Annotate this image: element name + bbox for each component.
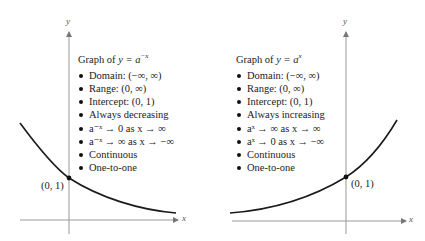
- left-point-label: (0, 1): [41, 180, 64, 191]
- right-item-continuous: Continuous: [236, 148, 325, 161]
- right-item-intercept: Intercept: (0, 1): [236, 95, 325, 108]
- right-title-equation: y = a: [276, 54, 298, 65]
- left-item-one-to-one: One-to-one: [78, 161, 174, 174]
- left-properties-list: Domain: (−∞, ∞) Range: (0, ∞) Intercept:…: [78, 69, 174, 175]
- right-properties-list: Domain: (−∞, ∞) Range: (0, ∞) Intercept:…: [236, 69, 325, 175]
- right-title-exponent: x: [299, 52, 302, 60]
- right-item-range: Range: (0, ∞): [236, 82, 325, 95]
- right-properties-box: Graph of y = ax Domain: (−∞, ∞) Range: (…: [236, 50, 325, 174]
- left-y-axis-label: y: [66, 16, 70, 26]
- left-item-limit-pos-inf: a⁻ˣ → 0 as x → ∞: [78, 122, 174, 135]
- right-item-limit-pos-inf: aˣ → ∞ as x → ∞: [236, 122, 325, 135]
- right-item-one-to-one: One-to-one: [236, 161, 325, 174]
- right-y-axis-label: y: [343, 16, 347, 26]
- left-item-limit-neg-inf: a⁻ˣ → ∞ as x → −∞: [78, 135, 174, 148]
- left-title-prefix: Graph of: [78, 54, 118, 65]
- right-x-axis-label: x: [409, 214, 413, 224]
- right-point-label: (0, 1): [351, 178, 374, 189]
- left-properties-box: Graph of y = a−x Domain: (−∞, ∞) Range: …: [78, 50, 174, 174]
- left-x-axis-label: x: [182, 213, 186, 223]
- left-item-domain: Domain: (−∞, ∞): [78, 69, 174, 82]
- right-title-prefix: Graph of: [236, 54, 276, 65]
- right-title: Graph of y = ax: [236, 50, 325, 66]
- left-item-monotonic: Always decreasing: [78, 108, 174, 121]
- plot-canvas: [0, 0, 425, 241]
- left-title-exponent: −x: [141, 52, 149, 60]
- right-item-limit-neg-inf: aˣ → 0 as x → −∞: [236, 135, 325, 148]
- left-intercept-point: [67, 176, 72, 181]
- right-item-monotonic: Always increasing: [236, 108, 325, 121]
- left-item-intercept: Intercept: (0, 1): [78, 95, 174, 108]
- right-intercept-point: [344, 175, 349, 180]
- left-title: Graph of y = a−x: [78, 50, 174, 66]
- left-title-equation: y = a: [118, 54, 140, 65]
- right-item-domain: Domain: (−∞, ∞): [236, 69, 325, 82]
- left-item-continuous: Continuous: [78, 148, 174, 161]
- left-item-range: Range: (0, ∞): [78, 82, 174, 95]
